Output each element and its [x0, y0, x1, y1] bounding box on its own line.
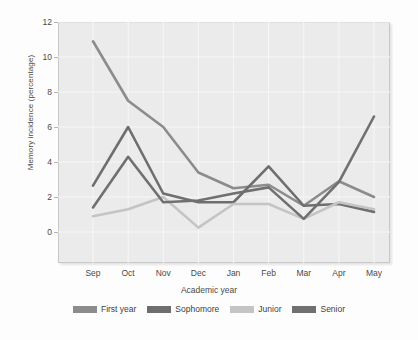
- legend-swatch: [73, 306, 97, 313]
- y-tick-label: 6: [26, 123, 52, 132]
- legend-swatch: [230, 306, 254, 313]
- plot-area: [58, 22, 390, 263]
- x-tick-label-feb: Feb: [261, 268, 276, 278]
- legend-item-junior[interactable]: Junior: [230, 304, 281, 314]
- legend-label: Junior: [258, 304, 281, 314]
- legend-item-sophomore[interactable]: Sophomore: [147, 304, 219, 314]
- y-tick-mark: [54, 232, 58, 233]
- y-tick-label: 0: [26, 228, 52, 237]
- x-tick-label-dec: Dec: [191, 268, 206, 278]
- y-tick-label: 10: [26, 53, 52, 62]
- legend-item-first-year[interactable]: First year: [73, 304, 136, 314]
- x-tick-label-sep: Sep: [85, 268, 100, 278]
- y-axis-tick-labels: 024681012: [26, 0, 52, 270]
- gridlines: [58, 22, 390, 263]
- legend-item-senior[interactable]: Senior: [292, 304, 345, 314]
- y-tick-label: 4: [26, 158, 52, 167]
- legend-swatch: [292, 306, 316, 313]
- y-tick-mark: [54, 162, 58, 163]
- x-tick-label-may: May: [366, 268, 382, 278]
- x-tick-label-jan: Jan: [227, 268, 241, 278]
- y-tick-mark: [54, 22, 58, 23]
- legend-label: Senior: [320, 304, 345, 314]
- legend-label: First year: [101, 304, 136, 314]
- legend-swatch: [147, 306, 171, 313]
- y-tick-mark: [54, 197, 58, 198]
- y-tick-label: 8: [26, 88, 52, 97]
- x-tick-label-nov: Nov: [156, 268, 171, 278]
- x-axis-title: Academic year: [0, 285, 418, 295]
- x-tick-label-mar: Mar: [296, 268, 311, 278]
- legend-label: Sophomore: [175, 304, 219, 314]
- y-tick-label: 2: [26, 193, 52, 202]
- y-tick-mark: [54, 127, 58, 128]
- chart-legend: First yearSophomoreJuniorSenior: [0, 304, 418, 314]
- x-tick-label-apr: Apr: [332, 268, 345, 278]
- y-tick-mark: [54, 57, 58, 58]
- line-chart: Memory incidence (percentage) 024681012 …: [0, 0, 418, 340]
- y-tick-mark: [54, 92, 58, 93]
- x-tick-label-oct: Oct: [122, 268, 135, 278]
- x-axis-tick-labels: SepOctNovDecJanFebMarAprMay: [58, 268, 390, 284]
- y-tick-label: 12: [26, 18, 52, 27]
